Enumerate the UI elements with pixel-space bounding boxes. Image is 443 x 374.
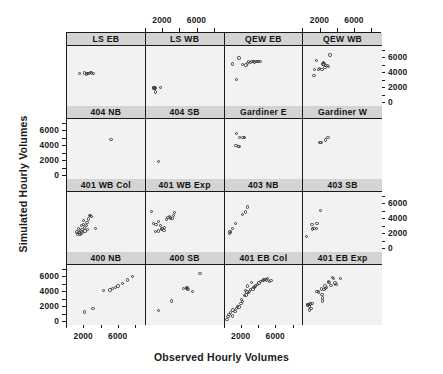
data-point [233,310,236,313]
data-point [191,290,194,293]
data-point [198,272,201,275]
data-point [315,227,318,230]
panel-strip-label: 401 WB Col [67,179,145,192]
data-point [328,53,331,56]
y-tick-label: 4000 [0,286,59,296]
panel-strip-label: LS EB [67,33,145,46]
data-point [109,138,112,141]
x-tick-label: 2000 [231,331,250,341]
y-tick-label: 0 [388,97,393,107]
panel-ls-eb: LS EB [67,33,146,106]
data-point [153,86,156,89]
panel-strip-label: Gardiner E [225,106,303,119]
y-tick-label: 2000 [388,82,407,92]
data-point [320,68,323,71]
data-point [323,66,326,69]
data-point [126,278,129,281]
panel-ls-wb: LS WB [146,33,225,106]
data-point [310,302,313,305]
data-point [85,224,88,227]
data-point [237,305,240,308]
panel-strip-label: 401 EB Col [225,252,303,265]
panel-plot-area [225,192,303,252]
panel-plot-area [225,265,303,325]
y-tick-label: 0 [0,316,59,326]
data-point [154,230,157,233]
y-tick-label: 0 [388,243,393,253]
data-point [92,72,95,75]
panel-plot-area [67,46,145,106]
panel-plot-area [303,119,382,179]
data-point [91,307,94,310]
data-point [83,310,86,313]
data-point [85,221,88,224]
data-point [258,60,261,63]
panel-plot-area [67,119,145,179]
panel-403-nb: 403 NB [225,179,304,252]
data-point [154,90,157,93]
data-point [246,205,249,208]
data-point [131,275,134,278]
panel-401-wb-exp: 401 WB Exp [146,179,225,252]
data-point [87,217,90,220]
panel-400-sb: 400 SB [146,252,225,325]
data-point [309,307,312,310]
panel-gardiner-e: Gardiner E [225,106,304,179]
scatterplot-matrix-figure: Observed Hourly Volumes Simulated Hourly… [0,0,443,374]
panel-strip-label: LS WB [146,33,224,46]
panel-strip-label: 401 WB Exp [146,179,224,192]
x-tick-label: 2000 [152,15,171,25]
data-point [250,281,253,284]
data-point [154,223,157,226]
data-point [231,314,234,317]
data-point [327,65,330,68]
data-point [121,282,124,285]
data-point [319,209,322,212]
data-point [310,223,313,226]
data-point [231,62,234,65]
panel-403-sb: 403 SB [303,179,382,252]
panel-row: 404 NB404 SBGardiner EGardiner W [67,106,380,180]
data-point [150,210,153,213]
data-point [234,222,237,225]
data-point [329,284,332,287]
panel-gardiner-w: Gardiner W [303,106,382,179]
data-point [94,227,97,230]
data-point [78,72,81,75]
data-point [116,284,119,287]
data-point [157,220,160,223]
panel-strip-label: 400 NB [67,252,145,265]
x-tick-label: 2000 [74,331,93,341]
data-point [235,132,238,135]
data-point [326,136,329,139]
panel-404-nb: 404 NB [67,106,146,179]
panel-row: 400 NB400 SB401 EB Col401 EB Exp [67,252,380,325]
panel-400-nb: 400 NB [67,252,146,325]
x-tick-label: 6000 [187,15,206,25]
x-tick-label: 6000 [344,15,363,25]
panel-strip-label: 403 SB [303,179,382,192]
data-point [170,217,173,220]
data-point [173,211,176,214]
panel-strip-label: Gardiner W [303,106,382,119]
panel-plot-area [146,265,224,325]
data-point [241,300,244,303]
data-point [159,86,162,89]
data-point [332,277,335,280]
x-tick-label: 2000 [310,15,329,25]
y-tick-label: 2000 [0,155,59,165]
data-point [237,145,240,148]
data-point [163,226,166,229]
data-point [269,279,272,282]
panel-strip-label: 403 NB [225,179,303,192]
panel-401-eb-col: 401 EB Col [225,252,304,325]
panel-strip-label: 404 SB [146,106,224,119]
data-point [243,136,246,139]
data-point [170,299,173,302]
data-point [86,228,89,231]
y-tick-label: 4000 [388,67,407,77]
data-point [324,287,327,290]
data-point [186,288,189,291]
panel-plot-area [303,46,382,106]
panel-row: LS EBLS WBQEW EBQEW WB [67,33,380,107]
